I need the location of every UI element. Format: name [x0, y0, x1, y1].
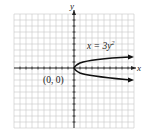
equation-text: x = 3y: [86, 41, 112, 51]
curve-arrow-upper-icon: [128, 55, 134, 60]
y-axis-label: y: [69, 1, 74, 11]
curve-arrow-lower-icon: [128, 78, 134, 83]
origin-label: (0, 0): [43, 75, 64, 86]
x-axis-label: x: [136, 63, 141, 73]
parabola-graph: y x x = 3y2 (0, 0): [0, 0, 144, 138]
equation-label: x = 3y2: [86, 39, 115, 51]
equation-exponent: 2: [111, 39, 115, 46]
x-axis-arrow-icon: [131, 66, 136, 70]
